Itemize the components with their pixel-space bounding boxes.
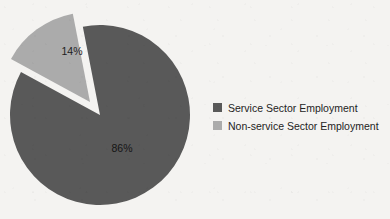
legend-item-service-sector[interactable]: Service Sector Employment xyxy=(213,101,379,114)
slice-value-label-minor: 14% xyxy=(61,45,82,57)
legend-swatch-icon-service-sector xyxy=(213,103,222,112)
legend-item-non-service-sector[interactable]: Non-service Sector Employment xyxy=(213,119,379,132)
slice-value-label-major: 86% xyxy=(111,142,132,154)
pie-chart-figure: 86% 14% Service Sector Employment Non-se… xyxy=(0,0,390,219)
legend-label-non-service-sector: Non-service Sector Employment xyxy=(228,120,379,132)
legend-label-service-sector: Service Sector Employment xyxy=(228,102,358,114)
legend-swatch-icon-non-service-sector xyxy=(213,121,222,130)
chart-legend: Service Sector Employment Non-service Se… xyxy=(213,101,379,132)
